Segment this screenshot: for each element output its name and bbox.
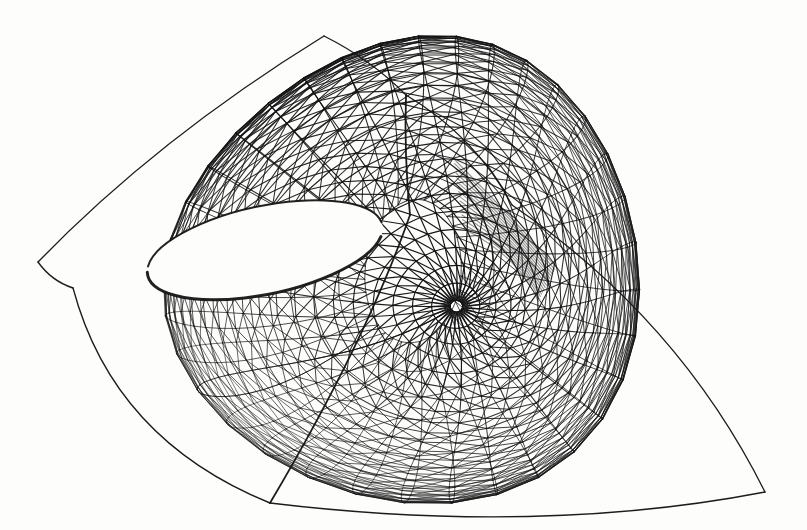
figure-root (0, 0, 807, 530)
surface-wireframe-plot (0, 0, 807, 530)
